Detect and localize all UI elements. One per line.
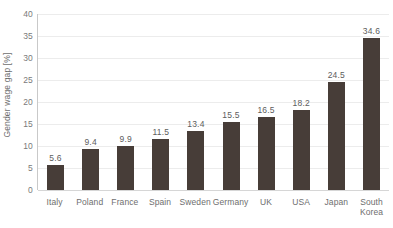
x-axis-tick-label: South Korea bbox=[354, 193, 389, 227]
y-axis-tick-labels: 0510152025303540 bbox=[14, 0, 36, 196]
bar[interactable] bbox=[152, 139, 169, 190]
bar[interactable] bbox=[363, 38, 380, 190]
y-axis-title: Gender wage gap [%] bbox=[0, 0, 14, 190]
y-axis-tick-label: 35 bbox=[23, 31, 33, 41]
bar-slot: 18.2 bbox=[284, 14, 319, 190]
bar[interactable] bbox=[82, 149, 99, 190]
x-axis-tick-label: Germany bbox=[213, 193, 249, 227]
x-axis-tick-label: USA bbox=[284, 193, 319, 227]
bar-slot: 34.6 bbox=[354, 14, 389, 190]
bar[interactable] bbox=[117, 146, 134, 190]
bar[interactable] bbox=[187, 131, 204, 190]
bar[interactable] bbox=[47, 165, 64, 190]
bar-slot: 9.4 bbox=[73, 14, 108, 190]
y-axis-tick-label: 25 bbox=[23, 75, 33, 85]
bar-chart: Gender wage gap [%] 0510152025303540 5.6… bbox=[0, 0, 393, 228]
bar-value-label: 11.5 bbox=[152, 127, 169, 137]
y-axis-tick-label: 30 bbox=[23, 53, 33, 63]
y-axis-tick-label: 40 bbox=[23, 9, 33, 19]
bar-slot: 24.5 bbox=[319, 14, 354, 190]
bar-series: 5.69.49.911.513.415.516.518.224.534.6 bbox=[38, 14, 389, 190]
y-axis-tick-label: 20 bbox=[23, 97, 33, 107]
bar-value-label: 16.5 bbox=[257, 105, 274, 115]
bar-value-label: 9.4 bbox=[84, 137, 96, 147]
y-axis-tick-label: 15 bbox=[23, 119, 33, 129]
bar[interactable] bbox=[293, 110, 310, 190]
x-axis-tick-label: France bbox=[107, 193, 142, 227]
x-axis-tick-label: Spain bbox=[142, 193, 177, 227]
bar-slot: 9.9 bbox=[108, 14, 143, 190]
x-axis-tick-label: Poland bbox=[72, 193, 107, 227]
bar-value-label: 24.5 bbox=[328, 70, 345, 80]
x-axis-tick-labels: ItalyPolandFranceSpainSwedenGermanyUKUSA… bbox=[37, 193, 389, 227]
bar-value-label: 9.9 bbox=[120, 134, 132, 144]
y-axis-tick-label: 0 bbox=[28, 185, 33, 195]
bar-value-label: 18.2 bbox=[293, 98, 310, 108]
bar-value-label: 34.6 bbox=[363, 26, 380, 36]
bar-slot: 11.5 bbox=[143, 14, 178, 190]
y-axis-title-text: Gender wage gap [%] bbox=[2, 52, 12, 137]
bar-slot: 15.5 bbox=[213, 14, 248, 190]
bar-value-label: 15.5 bbox=[222, 110, 239, 120]
bar-value-label: 5.6 bbox=[49, 153, 61, 163]
bar-slot: 5.6 bbox=[38, 14, 73, 190]
bar[interactable] bbox=[258, 117, 275, 190]
plot-area: 5.69.49.911.513.415.516.518.224.534.6 bbox=[37, 14, 389, 190]
y-axis-tick-label: 5 bbox=[28, 163, 33, 173]
x-axis-tick-label: UK bbox=[248, 193, 283, 227]
bar[interactable] bbox=[223, 122, 240, 190]
bar[interactable] bbox=[328, 82, 345, 190]
bar-slot: 16.5 bbox=[249, 14, 284, 190]
x-axis-tick-label: Italy bbox=[37, 193, 72, 227]
y-axis-tick-label: 10 bbox=[23, 141, 33, 151]
x-axis-tick-label: Japan bbox=[319, 193, 354, 227]
bar-slot: 13.4 bbox=[178, 14, 213, 190]
bar-value-label: 13.4 bbox=[187, 119, 204, 129]
x-axis-tick-label: Sweden bbox=[178, 193, 213, 227]
axis-baseline bbox=[38, 190, 389, 191]
